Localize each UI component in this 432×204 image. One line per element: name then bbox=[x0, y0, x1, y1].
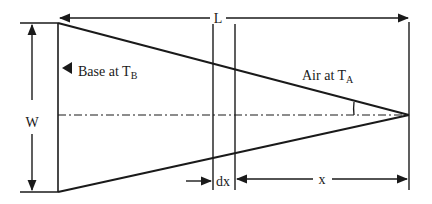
dx-label: dx bbox=[216, 174, 230, 189]
width-label: W bbox=[25, 115, 39, 130]
fin-diagram: L W Base at TB Air at TA dx bbox=[0, 0, 432, 204]
fin-lower-edge bbox=[58, 115, 409, 192]
air-label: Air at TA bbox=[302, 68, 354, 85]
fin-profile bbox=[58, 23, 409, 192]
base-pointer-icon bbox=[62, 62, 72, 74]
base-label: Base at TB bbox=[62, 62, 138, 81]
width-dimension: W bbox=[20, 23, 58, 192]
x-label: x bbox=[319, 172, 326, 187]
svg-text:Base at TB: Base at TB bbox=[78, 64, 138, 81]
length-label: L bbox=[214, 11, 223, 26]
dx-dimension: dx bbox=[186, 174, 230, 189]
x-dimension: x bbox=[237, 172, 407, 187]
length-dimension: L bbox=[60, 11, 408, 26]
